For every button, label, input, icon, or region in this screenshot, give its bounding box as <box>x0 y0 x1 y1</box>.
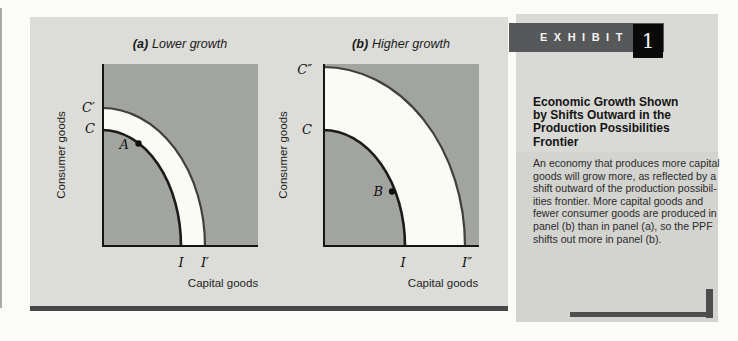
panel-a-title: (a)Lower growth <box>102 37 258 51</box>
sidebar-caption-line: fewer consumer goods are produced in <box>533 207 713 220</box>
panel-b-ytick-c-dblprime: C″ <box>282 62 312 77</box>
page-edge-line <box>0 8 2 308</box>
panel-b-title-prefix: (b) <box>352 37 368 51</box>
panel-b-x-axis-label: Capital goods <box>363 277 523 289</box>
panel-a-xtick-i-prime: I′ <box>190 255 220 270</box>
sidebar-caption-line: An economy that produces more capital <box>533 157 713 170</box>
panel-b-title: (b)Higher growth <box>323 37 479 51</box>
panel-a-title-text: Lower growth <box>152 37 227 51</box>
sidebar-caption-line: ities frontier. More capital goods and <box>533 195 713 208</box>
sidebar-caption: An economy that produces more capital go… <box>533 157 713 245</box>
sidebar-title: Economic Growth Shown by Shifts Outward … <box>533 96 708 149</box>
point-a-label: A <box>119 137 129 152</box>
panel-b-xtick-i-dblprime: I″ <box>452 255 482 270</box>
panel-a-x-axis-label: Capital goods <box>143 277 303 289</box>
panel-a-plot: A <box>102 64 258 247</box>
point-b-label: B <box>372 184 383 199</box>
panel-a-ytick-c-prime: C′ <box>65 100 95 115</box>
panel-a-title-prefix: (a) <box>133 37 148 51</box>
exhibit-number-box: 1 <box>633 24 663 58</box>
textbook-exhibit-page: (a)Lower growth Consumer goods A C′ C I … <box>0 0 738 341</box>
sidebar-caption-line: shifts out more in panel (b). <box>533 233 713 246</box>
sidebar-corner-rule-horizontal <box>570 312 713 317</box>
point-a-marker <box>135 140 141 146</box>
panel-b-plot: B <box>323 64 479 247</box>
panel-b-xtick-i: I <box>388 255 418 270</box>
panel-b-title-text: Higher growth <box>372 37 450 51</box>
figure-bottom-rule <box>30 306 508 311</box>
sidebar-caption-line: shift outward of the production possibil… <box>533 182 713 195</box>
sidebar-caption-line: goods will grow more, as reflected by a <box>533 170 713 183</box>
panel-a-ytick-c: C <box>65 121 95 136</box>
panel-b-ytick-c: C <box>282 122 312 137</box>
sidebar-caption-line: panel (b) than in panel (a), so the PPF <box>533 220 713 233</box>
sidebar-title-line: Frontier <box>533 136 708 149</box>
sidebar-title-line: Production Possibilities <box>533 122 708 135</box>
exhibit-label: EXHIBIT <box>540 31 629 43</box>
point-b-marker <box>389 188 395 194</box>
